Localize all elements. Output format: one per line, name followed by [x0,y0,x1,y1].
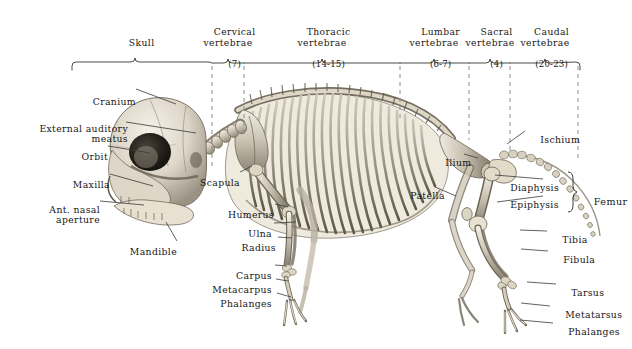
region-label-caudal: Caudal vertebrae (20-23) [507,16,583,81]
callout-fibula-text: Fibula [563,254,595,265]
callout-ischium: Ischium [527,124,597,156]
callout-orbit-text: Orbit [82,151,108,162]
figure-canvas: Skull Cervical vertebrae (7) Thoracic ve… [0,0,632,349]
callout-phalanges-hind: Phalanges [555,316,631,348]
region-label-skull-text: Skull [129,37,155,48]
callout-epiphysis: Epiphysis [497,189,565,221]
callout-radius: Radius [218,232,276,264]
region-label-cervical: Cervical vertebrae (7) [190,16,266,81]
callout-maxilla-text: Maxilla [73,179,110,190]
callout-patella-text: Patella [410,190,445,201]
callout-mandible: Mandible [107,236,177,268]
region-count-cervical: (7) [228,59,241,69]
callout-tarsus-text: Tarsus [571,287,604,298]
region-count-sacral: (4) [490,59,503,69]
callout-ant-nasal-aperture: Ant. nasal aperture [18,194,100,236]
callout-mandible-text: Mandible [130,246,177,257]
callout-patella: Patella [397,180,457,212]
region-label-caudal-text: Caudal vertebrae [521,26,570,48]
callout-ant-nasal-aperture-text: Ant. nasal aperture [49,204,100,226]
callout-ischium-text: Ischium [540,134,580,145]
region-count-thoracic: (14-15) [312,59,345,69]
callout-phalanges-hind-text: Phalanges [568,326,620,337]
callout-fibula: Fibula [550,244,604,276]
region-label-cervical-text: Cervical vertebrae [204,26,256,48]
callout-phalanges-fore: Phalanges [198,288,272,320]
region-count-caudal: (20-23) [535,59,568,69]
callout-epiphysis-text: Epiphysis [510,199,559,210]
callout-scapula-text: Scapula [200,177,240,188]
region-dividers [212,66,578,170]
region-label-skull: Skull [95,27,175,59]
callout-radius-text: Radius [241,242,276,253]
region-label-thoracic: Thoracic vertebrae (14-15) [284,16,360,81]
region-count-lumbar: (6-7) [430,59,452,69]
callout-scapula: Scapula [178,167,240,199]
callout-ilium: Ilium [432,147,484,179]
callout-tibia-text: Tibia [562,234,587,245]
callout-femur: Femur [580,186,630,218]
callout-orbit: Orbit [42,141,108,173]
callout-femur-text: Femur [594,196,628,207]
callout-cranium-text: Cranium [93,96,136,107]
region-label-thoracic-text: Thoracic vertebrae [298,26,351,48]
callout-phalanges-fore-text: Phalanges [220,298,272,309]
callout-ilium-text: Ilium [445,157,471,168]
femur-brace [568,172,577,212]
